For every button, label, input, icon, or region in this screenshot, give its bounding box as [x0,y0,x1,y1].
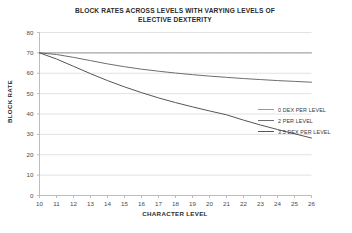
legend-label: 3.5 DEX PER LEVEL [278,129,331,135]
legend-swatch-icon [258,109,274,110]
series-line-1 [40,53,312,82]
legend-label: 0 DEX PER LEVEL [278,107,326,113]
legend-item-0[interactable]: 0 DEX PER LEVEL [258,104,331,115]
legend-swatch-icon [258,131,274,132]
legend-item-1[interactable]: 2 PER LEVEL [258,115,331,126]
block-rate-line-chart: BLOCK RATES ACROSS LEVELS WITH VARYING L… [0,0,352,233]
legend-label: 2 PER LEVEL [278,118,313,124]
legend: 0 DEX PER LEVEL2 PER LEVEL3.5 DEX PER LE… [258,104,331,137]
legend-item-2[interactable]: 3.5 DEX PER LEVEL [258,126,331,137]
legend-swatch-icon [258,120,274,121]
